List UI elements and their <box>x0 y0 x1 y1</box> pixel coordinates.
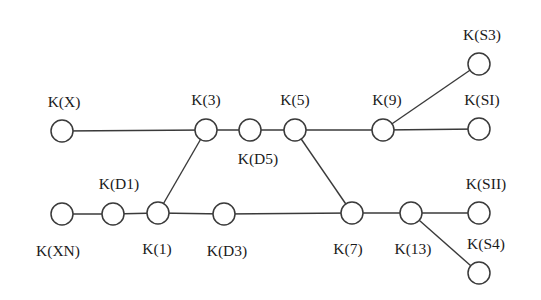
knot-graph-diagram: K(X)K(3)K(D5)K(5)K(9)K(SI)K(S3)K(XN)K(D1… <box>0 0 541 300</box>
node-label-d1: K(D1) <box>99 175 139 193</box>
node-label-13: K(13) <box>394 240 431 258</box>
node-xn <box>51 203 73 225</box>
edge-x-3 <box>62 130 206 131</box>
node-d3 <box>213 203 235 225</box>
node-7 <box>341 202 363 224</box>
node-1 <box>147 202 169 224</box>
node-label-d3: K(D3) <box>207 242 247 260</box>
node-label-sii: K(SII) <box>466 175 506 193</box>
node-label-si: K(SI) <box>464 91 499 109</box>
node-label-9: K(9) <box>372 91 401 109</box>
node-label-xn: K(XN) <box>36 242 80 260</box>
node-label-3: K(3) <box>191 91 220 109</box>
node-s3 <box>468 53 490 75</box>
node-label-s4: K(S4) <box>467 235 505 253</box>
node-3 <box>195 119 217 141</box>
edge-9-si <box>383 129 479 130</box>
node-d5 <box>239 119 261 141</box>
edge-1-3 <box>158 130 206 213</box>
node-d1 <box>102 203 124 225</box>
node-9 <box>372 119 394 141</box>
edge-d3-7 <box>224 213 352 214</box>
node-sii <box>468 202 490 224</box>
node-si <box>468 118 490 140</box>
node-label-7: K(7) <box>333 240 362 258</box>
edge-5-7 <box>295 130 352 213</box>
node-label-5: K(5) <box>280 91 309 109</box>
node-x <box>51 120 73 142</box>
node-label-x: K(X) <box>48 93 81 111</box>
node-13 <box>400 202 422 224</box>
node-s4 <box>468 262 490 284</box>
labels-layer: K(X)K(3)K(D5)K(5)K(9)K(SI)K(S3)K(XN)K(D1… <box>36 26 506 260</box>
node-label-s3: K(S3) <box>463 26 501 44</box>
node-5 <box>284 119 306 141</box>
node-label-d5: K(D5) <box>238 150 278 168</box>
node-label-1: K(1) <box>142 240 171 258</box>
